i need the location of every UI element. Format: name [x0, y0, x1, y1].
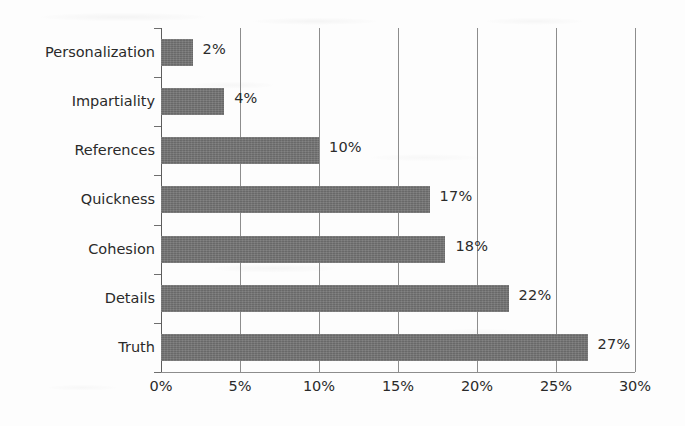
xtick-label: 10% — [303, 378, 335, 394]
bar-references — [161, 137, 319, 164]
bar-row: 10% — [161, 126, 635, 175]
value-axis-tick-labels: 0% 5% 10% 15% 20% 25% 30% — [161, 378, 635, 402]
tick-mark — [154, 372, 161, 373]
bar-personalization — [161, 39, 193, 66]
category-label-details: Details — [0, 274, 155, 323]
category-label-personalization: Personalization — [0, 28, 155, 77]
bar-value-cohesion: 18% — [455, 238, 488, 254]
bar-value-references: 10% — [329, 139, 362, 155]
tick-mark — [154, 225, 161, 226]
bar-value-truth: 27% — [598, 336, 631, 352]
category-label-cohesion: Cohesion — [0, 225, 155, 274]
xtick-label: 0% — [149, 378, 172, 394]
bar-row: 2% — [161, 28, 635, 77]
bar-value-personalization: 2% — [203, 41, 226, 57]
xtick-label: 15% — [382, 378, 414, 394]
bar-row: 22% — [161, 274, 635, 323]
tick-mark — [154, 28, 161, 29]
bar-cohesion — [161, 236, 445, 263]
xtick-label: 25% — [540, 378, 572, 394]
category-label-references: References — [0, 126, 155, 175]
category-label-truth: Truth — [0, 323, 155, 372]
tick-mark — [154, 175, 161, 176]
bar-row: 4% — [161, 77, 635, 126]
bar-impartiality — [161, 88, 224, 115]
bar-value-quickness: 17% — [440, 188, 473, 204]
bar-truth — [161, 334, 588, 361]
category-label-impartiality: Impartiality — [0, 77, 155, 126]
category-axis-baseline — [161, 372, 635, 373]
bar-value-details: 22% — [519, 287, 552, 303]
tick-mark — [154, 126, 161, 127]
xtick-label: 20% — [461, 378, 493, 394]
xtick-label: 30% — [619, 378, 651, 394]
bar-row: 27% — [161, 323, 635, 372]
bar-row: 17% — [161, 175, 635, 224]
gridline — [635, 28, 636, 372]
tick-mark — [154, 274, 161, 275]
bar-value-impartiality: 4% — [234, 90, 257, 106]
plot-area: 2% 4% 10% 17% 18% 22% — [161, 28, 635, 372]
category-axis-labels: Personalization Impartiality References … — [0, 28, 155, 372]
category-label-quickness: Quickness — [0, 175, 155, 224]
bar-row: 18% — [161, 225, 635, 274]
bar-details — [161, 285, 509, 312]
bar-chart: Personalization Impartiality References … — [0, 0, 685, 426]
tick-mark — [154, 323, 161, 324]
bar-quickness — [161, 186, 430, 213]
tick-mark — [154, 77, 161, 78]
xtick-label: 5% — [228, 378, 251, 394]
